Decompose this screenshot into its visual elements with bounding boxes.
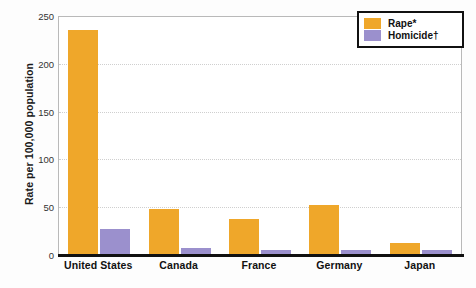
legend-swatch-homicide-icon xyxy=(364,30,381,41)
x-tick-canada: Canada xyxy=(138,259,218,271)
bar-group-canada xyxy=(139,17,219,254)
y-tick-50: 50 xyxy=(2,202,54,213)
x-tick-france: France xyxy=(219,259,299,271)
bar-rape-canada xyxy=(149,209,179,254)
bar-rape-united-states xyxy=(68,30,98,254)
plot-inner xyxy=(59,17,461,254)
bar-group-germany xyxy=(300,17,380,254)
legend-label-homicide: Homicide† xyxy=(388,30,439,41)
bar-rape-germany xyxy=(309,205,339,254)
x-tick-united-states: United States xyxy=(58,259,138,271)
x-tick-japan: Japan xyxy=(380,259,460,271)
y-axis-tick-labels: 250 200 150 100 50 0 xyxy=(0,0,54,288)
y-tick-100: 100 xyxy=(2,154,54,165)
bar-homicide-united-states xyxy=(100,229,130,254)
y-tick-150: 150 xyxy=(2,106,54,117)
x-tick-germany: Germany xyxy=(299,259,379,271)
y-tick-200: 200 xyxy=(2,58,54,69)
bar-group-united-states xyxy=(59,17,139,254)
legend-label-rape: Rape* xyxy=(388,18,416,29)
legend: Rape* Homicide† xyxy=(357,11,464,48)
y-tick-0: 0 xyxy=(2,250,54,261)
bar-rape-japan xyxy=(390,243,420,254)
legend-item-homicide: Homicide† xyxy=(364,30,457,41)
x-axis-baseline xyxy=(58,254,464,257)
legend-item-rape: Rape* xyxy=(364,18,457,29)
bar-chart: Rate per 100,000 population 250 200 150 … xyxy=(0,0,476,288)
bar-group-japan xyxy=(381,17,461,254)
plot-area xyxy=(58,16,462,255)
legend-swatch-rape-icon xyxy=(364,18,381,29)
y-tick-250: 250 xyxy=(2,11,54,22)
bar-rape-france xyxy=(229,219,259,254)
bar-group-france xyxy=(220,17,300,254)
